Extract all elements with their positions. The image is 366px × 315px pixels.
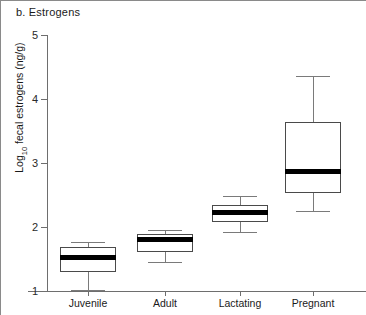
figure-panel: b. Estrogens 12345 JuvenileAdultLactatin… (0, 0, 366, 315)
cap-upper (296, 76, 330, 77)
cap-lower (296, 211, 330, 212)
y-tick-5 (41, 35, 47, 36)
x-tick-juvenile (88, 291, 89, 296)
y-tick-2 (41, 227, 47, 228)
x-tick-label-pregnant: Pregnant (292, 297, 335, 309)
x-tick-adult (165, 291, 166, 296)
x-tick-label-juvenile: Juvenile (69, 297, 108, 309)
x-tick-pregnant (313, 291, 314, 296)
whisker-lower (88, 272, 89, 290)
cap-upper (71, 242, 105, 243)
cap-lower (148, 262, 182, 263)
x-tick-lactating (240, 291, 241, 296)
median-line (60, 255, 116, 260)
whisker-lower (165, 252, 166, 262)
x-tick-label-adult: Adult (153, 297, 177, 309)
y-tick-3 (41, 163, 47, 164)
whisker-upper (240, 196, 241, 205)
whisker-lower (313, 193, 314, 211)
y-tick-label-2: 2 (22, 221, 38, 233)
whisker-upper (313, 76, 314, 122)
y-tick-4 (41, 99, 47, 100)
cap-upper (148, 230, 182, 231)
box-iqr (285, 122, 341, 193)
x-tick-label-lactating: Lactating (219, 297, 262, 309)
cap-lower (223, 232, 257, 233)
median-line (285, 169, 341, 174)
median-line (137, 237, 193, 242)
x-axis-line (28, 291, 366, 292)
y-tick-label-1: 1 (22, 285, 38, 297)
y-axis-title-prefix: Log (13, 155, 25, 173)
y-tick-1 (41, 291, 47, 292)
whisker-lower (240, 222, 241, 232)
cap-lower (71, 290, 105, 291)
y-axis-title: Log10 fecal estrogens (ng/g) (13, 18, 28, 198)
y-axis-line (47, 35, 48, 292)
y-axis-title-suffix: fecal estrogens (ng/g) (13, 42, 25, 146)
boxplot-chart: 12345 JuvenileAdultLactatingPregnant Log… (0, 0, 366, 315)
cap-upper (223, 196, 257, 197)
median-line (212, 210, 268, 215)
y-axis-title-subscript: 10 (20, 147, 29, 155)
box-iqr (60, 247, 116, 271)
